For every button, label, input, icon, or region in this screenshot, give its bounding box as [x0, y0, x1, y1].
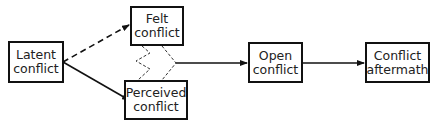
- edge-latent-felt: [63, 25, 129, 62]
- node-felt-conflict: Felt conflict: [130, 6, 184, 46]
- edge-convergence: [162, 46, 176, 80]
- node-label: Perceived conflict: [126, 86, 187, 114]
- node-label: Conflict aftermath: [367, 49, 429, 77]
- node-label: Open conflict: [253, 49, 299, 77]
- node-label: Felt conflict: [134, 12, 180, 40]
- node-label: Latent conflict: [13, 48, 59, 76]
- node-open-conflict: Open conflict: [248, 42, 303, 83]
- node-conflict-aftermath: Conflict aftermath: [365, 42, 430, 83]
- node-perceived-conflict: Perceived conflict: [124, 80, 188, 120]
- edge-latent-perceived: [63, 62, 129, 100]
- edge-felt-perceived-zigzag: [136, 46, 150, 80]
- node-latent-conflict: Latent conflict: [8, 41, 64, 83]
